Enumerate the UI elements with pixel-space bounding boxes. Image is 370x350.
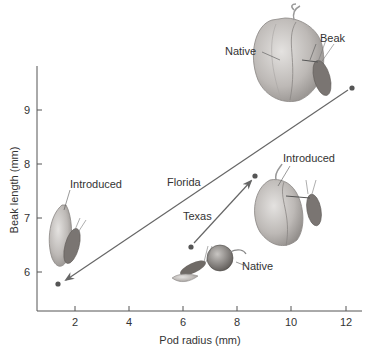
- texas-introduced-pod-illustration: [255, 164, 324, 246]
- x-tick-label: 4: [126, 316, 132, 328]
- texas-native-pod-illustration: [172, 245, 246, 282]
- chart: 6 7 8 9 2 4 6 8 10 12 Pod radius (mm) Be…: [0, 0, 370, 350]
- data-point-florida-introduced: [55, 281, 60, 286]
- label-florida: Florida: [167, 176, 202, 188]
- x-tick-label: 10: [285, 316, 297, 328]
- x-tick-label: 8: [234, 316, 240, 328]
- x-tick-label: 2: [72, 316, 78, 328]
- x-axis-title: Pod radius (mm): [159, 334, 240, 346]
- florida-introduced-pod-illustration: [49, 190, 86, 266]
- label-native-texas: Native: [242, 260, 273, 272]
- y-axis-title: Beak length (mm): [8, 147, 20, 234]
- y-tick-label: 7: [24, 212, 30, 224]
- data-point-texas-native: [188, 244, 193, 249]
- data-point-florida-native: [349, 85, 354, 90]
- florida-native-pod-illustration: [253, 4, 334, 102]
- x-tick-label: 12: [340, 316, 352, 328]
- label-beak: Beak: [320, 32, 346, 44]
- label-introduced-florida: Introduced: [70, 178, 122, 190]
- x-tick-label: 6: [180, 316, 186, 328]
- x-ticks: 2 4 6 8 10 12: [72, 306, 352, 328]
- data-point-texas-introduced: [252, 173, 257, 178]
- label-introduced-texas: Introduced: [283, 152, 335, 164]
- y-tick-label: 8: [24, 158, 30, 170]
- y-tick-label: 9: [24, 104, 30, 116]
- y-tick-label: 6: [24, 266, 30, 278]
- label-native-florida: Native: [225, 45, 256, 57]
- y-ticks: 6 7 8 9: [24, 104, 42, 278]
- label-texas: Texas: [183, 210, 212, 222]
